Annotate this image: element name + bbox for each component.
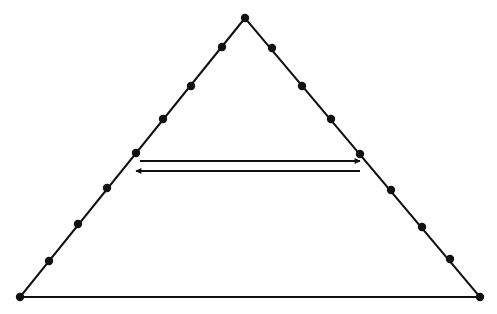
point-marker bbox=[187, 82, 195, 90]
triangle-diagram bbox=[0, 0, 497, 314]
point-marker bbox=[327, 115, 335, 123]
point-marker bbox=[218, 43, 226, 51]
point-marker bbox=[74, 220, 82, 228]
point-marker bbox=[268, 44, 276, 52]
point-marker bbox=[298, 82, 306, 90]
point-marker bbox=[103, 184, 111, 192]
point-marker bbox=[476, 293, 484, 301]
point-marker bbox=[446, 255, 454, 263]
vertex-points bbox=[16, 14, 484, 301]
point-marker bbox=[159, 115, 167, 123]
point-marker bbox=[387, 186, 395, 194]
point-marker bbox=[16, 293, 24, 301]
point-marker bbox=[132, 149, 140, 157]
triangle bbox=[20, 18, 480, 297]
point-marker bbox=[356, 150, 364, 158]
triangle-outline bbox=[20, 18, 480, 297]
point-marker bbox=[45, 257, 53, 265]
point-marker bbox=[241, 14, 249, 22]
point-marker bbox=[418, 223, 426, 231]
arrows bbox=[136, 161, 360, 171]
